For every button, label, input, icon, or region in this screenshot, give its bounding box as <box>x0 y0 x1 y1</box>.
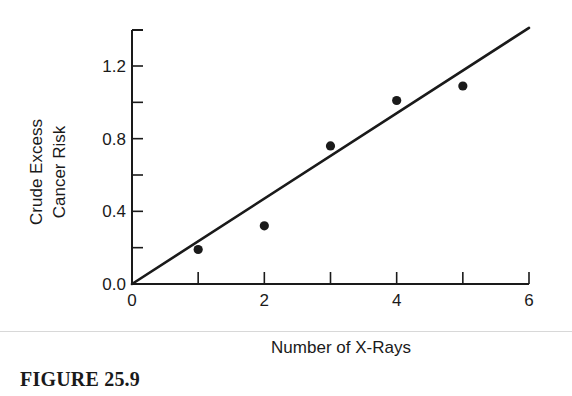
data-point <box>260 221 269 230</box>
x-tick-label: 6 <box>524 291 533 310</box>
figure-caption: FIGURE 25.9 <box>20 368 140 391</box>
y-tick-label: 1.2 <box>102 57 126 76</box>
x-axis-title: Number of X-Rays <box>271 338 411 358</box>
y-tick-label: 0.0 <box>102 275 126 294</box>
x-tick-label: 0 <box>127 291 136 310</box>
page-separator <box>0 331 572 332</box>
y-tick-label: 0.4 <box>102 202 126 221</box>
x-tick-label: 2 <box>260 291 269 310</box>
y-tick-label: 0.8 <box>102 130 126 149</box>
x-tick-label: 4 <box>392 291 401 310</box>
y-axis-title-line: Crude Excess <box>27 119 46 225</box>
data-point <box>392 96 401 105</box>
scatter-chart: 0.00.40.81.2 0246 Crude ExcessCancer Ris… <box>0 0 572 330</box>
y-axis-title: Crude ExcessCancer Risk <box>27 119 69 225</box>
x-axis: 0246 <box>127 272 533 310</box>
data-point <box>458 81 467 90</box>
fit-line <box>132 28 529 284</box>
data-point <box>326 141 335 150</box>
data-point <box>194 245 203 254</box>
data-points <box>194 81 468 254</box>
y-axis-title-line: Cancer Risk <box>50 125 69 218</box>
y-axis: 0.00.40.81.2 <box>102 30 143 294</box>
